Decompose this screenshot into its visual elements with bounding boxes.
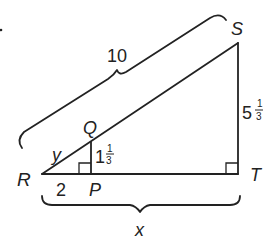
label-ST-denominator: 3	[256, 111, 262, 122]
brace-RT	[42, 196, 240, 212]
label-vertex-R: R	[17, 169, 31, 190]
label-vertex-T: T	[250, 165, 263, 185]
label-ST-numerator: 1	[257, 98, 263, 109]
label-QP-whole: 1	[95, 147, 105, 167]
label-RP-length: 2	[56, 180, 66, 200]
label-QP-length: 1 1 3	[95, 143, 114, 167]
label-RS-length: 10	[107, 46, 127, 66]
label-QP-numerator: 1	[107, 143, 113, 154]
label-vertex-S: S	[231, 19, 243, 39]
label-vertex-P: P	[89, 180, 101, 200]
label-ST-whole: 5	[242, 103, 252, 123]
right-angle-P	[79, 163, 91, 174]
label-RQ-length: y	[50, 145, 62, 165]
label-ST-length: 5 1 3	[242, 98, 263, 123]
label-vertex-Q: Q	[83, 118, 97, 138]
label-QP-denominator: 3	[106, 155, 112, 166]
brace-RS	[19, 15, 226, 148]
right-angle-T	[226, 163, 238, 174]
dot-mark	[0, 29, 2, 32]
triangle-diagram: 10 S R T Q P y 2 x 1 1 3 5 1 3	[0, 0, 276, 239]
label-RT-length: x	[134, 220, 145, 239]
